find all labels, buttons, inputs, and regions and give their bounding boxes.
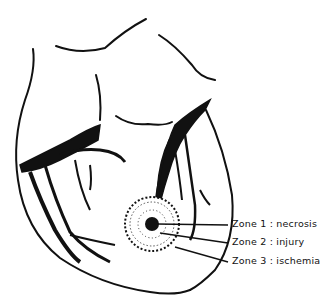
aortic-outline	[56, 19, 146, 51]
pulmonary-outline	[159, 35, 215, 80]
label-zone-3: Zone 3 : ischemia	[232, 255, 320, 266]
mid-line	[116, 116, 172, 125]
leader-zone-3	[175, 247, 228, 262]
zone-1-necrosis	[145, 217, 159, 231]
atrium-line	[96, 75, 101, 120]
label-zone-2: Zone 2 : injury	[232, 236, 304, 247]
right-heart-border	[190, 110, 233, 290]
label-zone-1: Zone 1 : necrosis	[232, 218, 317, 229]
